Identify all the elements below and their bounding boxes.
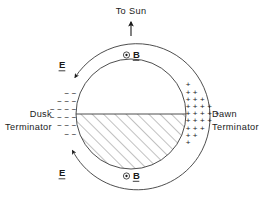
e-field-label-lower: E [59,167,65,178]
negative-charge-marker: − [57,121,62,130]
negative-charge-marker: − [64,130,69,139]
dawn-terminator-label-line1: Dawn [212,109,237,119]
nightside-hatched-region [70,108,196,178]
positive-charge-marker: + [193,131,198,140]
e-field-label-lower-group: E [59,167,66,179]
to-sun-label: To Sun [116,6,147,16]
e-field-label-upper: E [59,59,65,70]
negative-charge-marker: − [72,130,77,139]
positive-charge-marker: + [200,124,205,133]
positive-charge-marker: + [186,138,191,147]
dawn-terminator-label-line2: Terminator [212,122,259,132]
b-field-label-lower: B [133,170,140,181]
dusk-terminator-label-line1: Dusk [30,109,52,119]
magnetosphere-diagram: To Sun B B [0,0,263,197]
dusk-charge-cluster: −−−−−−−−−−−−−−−−−− [50,89,77,139]
b-field-marker-lower: B [123,170,140,181]
e-field-label-upper-group: E [59,59,66,71]
b-field-label-upper: B [133,49,140,60]
dusk-terminator-label-line2: Terminator [5,122,52,132]
diagram-canvas: To Sun B B [0,0,263,197]
